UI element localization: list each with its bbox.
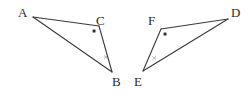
segment-ed: [143, 19, 228, 71]
segment-fe: [143, 29, 161, 71]
segment-ac: [33, 17, 99, 26]
triangle-fde: [143, 19, 228, 71]
right-angle-dot-f: [164, 33, 167, 36]
vertex-label-b: B: [112, 75, 121, 88]
segment-cb: [99, 26, 112, 72]
segment-fd: [161, 19, 228, 29]
vertex-label-a: A: [18, 6, 27, 19]
vertex-label-e: E: [134, 75, 142, 88]
tick-mark-ef: [152, 56, 156, 59]
vertex-label-c: C: [96, 14, 105, 27]
right-angle-dot-c: [93, 30, 96, 33]
geometry-figure: A C B F D E: [0, 0, 250, 96]
triangles-diagram: [0, 0, 250, 96]
vertex-label-f: F: [148, 14, 155, 27]
vertex-label-d: D: [231, 6, 240, 19]
tick-mark-cb: [104, 55, 108, 58]
